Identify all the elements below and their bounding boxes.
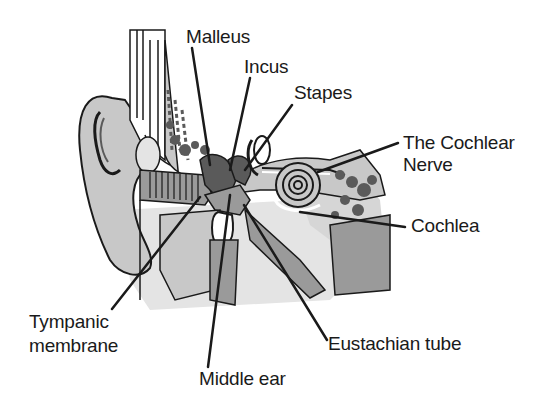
label-eustachian-tube: Eustachian tube <box>328 333 461 355</box>
label-cochlea: Cochlea <box>411 215 479 237</box>
label-malleus: Malleus <box>186 26 250 48</box>
label-tympanic-line1: Tympanic <box>29 311 109 333</box>
label-tympanic-line2: membrane <box>29 335 118 357</box>
label-cochlear-nerve-line1: The Cochlear <box>403 132 515 154</box>
ear-canal <box>140 170 212 205</box>
label-stapes: Stapes <box>294 82 352 104</box>
label-cochlear-nerve-line2: Nerve <box>403 154 453 176</box>
label-incus: Incus <box>244 56 288 78</box>
label-middle-ear: Middle ear <box>199 368 286 390</box>
